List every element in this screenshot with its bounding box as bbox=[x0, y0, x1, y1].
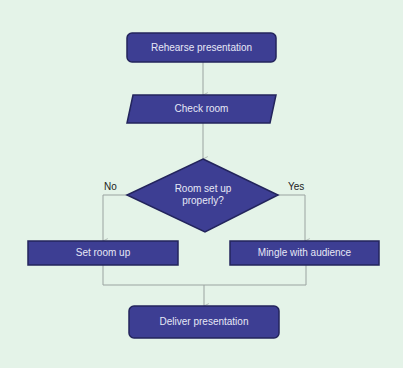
node-set-room-up-shape[interactable] bbox=[28, 241, 178, 265]
node-mingle-shape[interactable] bbox=[230, 241, 379, 265]
node-rehearse-shape[interactable] bbox=[127, 33, 276, 62]
node-deliver-shape[interactable] bbox=[129, 306, 279, 338]
connector-decision-no bbox=[103, 195, 128, 241]
node-check-room-shape[interactable] bbox=[127, 95, 276, 123]
edge-label-no: No bbox=[104, 181, 117, 193]
connector-decision-yes bbox=[278, 195, 305, 241]
node-decision-shape[interactable] bbox=[127, 159, 278, 232]
flowchart-canvas bbox=[0, 0, 403, 368]
connector-merge bbox=[103, 265, 306, 285]
edge-label-yes: Yes bbox=[288, 181, 304, 193]
